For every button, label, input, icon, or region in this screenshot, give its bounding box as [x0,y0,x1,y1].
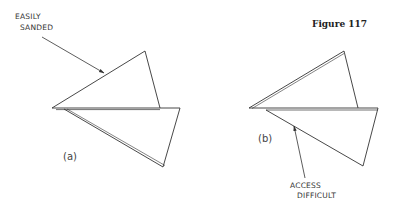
panel-a-diagram [52,51,180,167]
callout-easily-sanded: EASILY SANDED [15,12,104,73]
svg-text:ACCESS: ACCESS [290,181,321,190]
panel-a-label: (a) [63,151,77,162]
svg-text:EASILY: EASILY [15,12,41,21]
svg-text:SANDED: SANDED [20,23,53,32]
panel-b-label: (b) [258,133,272,144]
panel-b-diagram [249,51,378,166]
svg-text:DIFFICULT: DIFFICULT [297,191,336,200]
figure-canvas: Figure 117 EASILY SANDED (a) ACCESS DIFF… [0,0,398,203]
figure-title: Figure 117 [312,19,367,29]
